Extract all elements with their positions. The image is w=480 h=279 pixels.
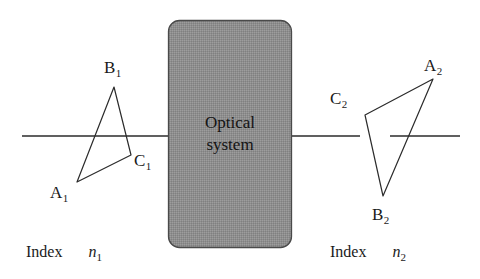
vertex-label-a2-sub: 2: [436, 65, 442, 77]
vertex-label-b1-sub: 1: [115, 67, 121, 79]
index-left: Indexn1: [26, 244, 102, 263]
vertex-label-c2-sub: 2: [341, 98, 347, 110]
vertex-label-c1-letter: C: [134, 151, 145, 170]
vertex-label-b1: B1: [104, 59, 121, 79]
index-right-word: Index: [330, 243, 366, 260]
vertex-label-b2: B2: [372, 206, 389, 226]
index-right-symbol-group: n2: [366, 243, 406, 260]
optical-system-caption: Optical system: [168, 112, 292, 156]
vertex-label-a2-letter: A: [424, 56, 436, 75]
optical-system-diagram: Optical system B1 C1 A1 A2 C2 B2 Indexn1…: [0, 0, 480, 279]
optical-system-caption-line1: Optical: [168, 112, 292, 134]
vertex-label-b2-letter: B: [372, 205, 383, 224]
index-left-symbol-group: n1: [62, 243, 102, 260]
object-triangle-shape: [77, 87, 131, 182]
index-right: Indexn2: [330, 244, 406, 263]
index-right-sub: 2: [400, 251, 406, 263]
index-left-sub: 1: [96, 251, 102, 263]
vertex-label-a1-letter: A: [50, 183, 62, 202]
vertex-label-c1: C1: [134, 152, 151, 172]
image-triangle-shape: [365, 79, 433, 196]
vertex-label-c1-sub: 1: [145, 160, 151, 172]
vertex-label-a2: A2: [424, 57, 442, 77]
optical-system-caption-line2: system: [168, 134, 292, 156]
vertex-label-b1-letter: B: [104, 58, 115, 77]
vertex-label-a1-sub: 1: [62, 192, 68, 204]
vertex-label-c2: C2: [330, 90, 347, 110]
index-left-word: Index: [26, 243, 62, 260]
vertex-label-b2-sub: 2: [383, 214, 389, 226]
vertex-label-c2-letter: C: [330, 89, 341, 108]
vertex-label-a1: A1: [50, 184, 68, 204]
